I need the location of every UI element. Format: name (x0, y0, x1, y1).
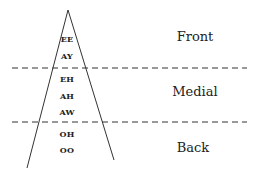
vowel-label: OH (60, 129, 75, 139)
vowel-triangle-diagram (0, 0, 257, 175)
region-label-medial: Medial (172, 84, 217, 99)
region-label-front: Front (177, 29, 214, 44)
vowel-label: EH (60, 74, 74, 84)
triangle-right-edge (68, 10, 114, 160)
region-label-back: Back (177, 140, 209, 155)
vowel-label: AH (60, 91, 74, 101)
vowel-label: OO (60, 145, 74, 155)
vowel-label: AY (61, 51, 73, 61)
vowel-label: AW (59, 107, 74, 117)
vowel-label: EE (61, 34, 74, 44)
